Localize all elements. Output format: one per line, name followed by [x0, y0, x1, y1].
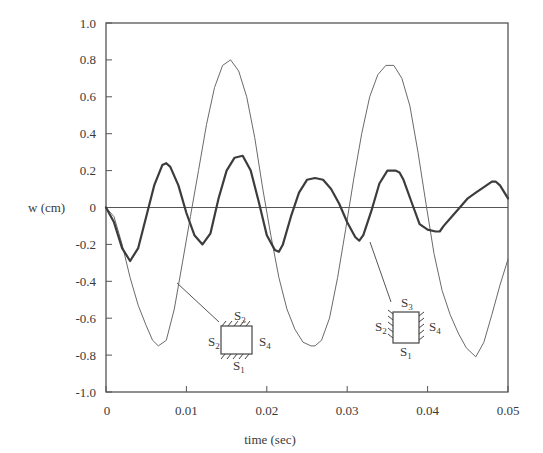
edge-label-s1: S1: [233, 358, 245, 375]
y-tick-label: -1.0: [75, 385, 96, 400]
edge-label-s2: S2: [375, 319, 387, 336]
x-tick-label: 0.04: [416, 403, 439, 418]
edge-label-s3: S3: [401, 295, 413, 312]
y-tick-label: -0.2: [75, 237, 96, 252]
clamp-hatch-right-icon: [419, 312, 424, 340]
edge-label-s2: S2: [208, 334, 220, 351]
inset-diagram-s2-s4-clamped: S3 S2 S4 S1: [370, 242, 441, 361]
y-tick-label: 0.8: [80, 52, 96, 67]
series-line-s2-s4-clamped: [106, 156, 508, 261]
y-tick-label: -0.6: [75, 311, 96, 326]
x-tick-label: 0.01: [175, 403, 198, 418]
edge-label-s4: S4: [429, 319, 441, 336]
y-tick-label: -0.8: [75, 348, 96, 363]
y-tick-label: 0.2: [80, 163, 96, 178]
inset-diagram-s1-s3-clamped: S3 S2 S4 S1: [177, 283, 271, 375]
x-tick-label: 0: [104, 403, 111, 418]
clamp-hatch-left-icon: [388, 310, 393, 338]
plate-square: [393, 312, 419, 343]
series-line-s1-s3-clamped: [106, 60, 508, 357]
x-tick-label: 0.02: [255, 403, 278, 418]
edge-label-s1: S1: [400, 344, 412, 361]
x-tick-label: 0.03: [336, 403, 359, 418]
response-chart: 1.00.80.60.40.20-0.2-0.4-0.6-0.8-1.0 00.…: [0, 0, 543, 453]
edge-label-s3: S3: [234, 308, 246, 325]
x-tick-label: 0.05: [497, 403, 520, 418]
plate-square: [221, 326, 252, 354]
y-tick-label: 0: [90, 200, 97, 215]
series-layer: [106, 60, 508, 357]
x-axis-ticks: 00.010.020.030.040.05: [104, 386, 520, 418]
y-tick-label: 0.6: [80, 89, 97, 104]
leader-line: [370, 242, 391, 302]
y-axis-title: w (cm): [28, 200, 65, 215]
edge-label-s4: S4: [259, 334, 271, 351]
x-axis-title: time (sec): [244, 432, 296, 447]
leader-line: [177, 283, 219, 322]
y-tick-label: 0.4: [80, 126, 97, 141]
y-tick-label: -0.4: [75, 274, 96, 289]
y-tick-label: 1.0: [80, 16, 96, 31]
